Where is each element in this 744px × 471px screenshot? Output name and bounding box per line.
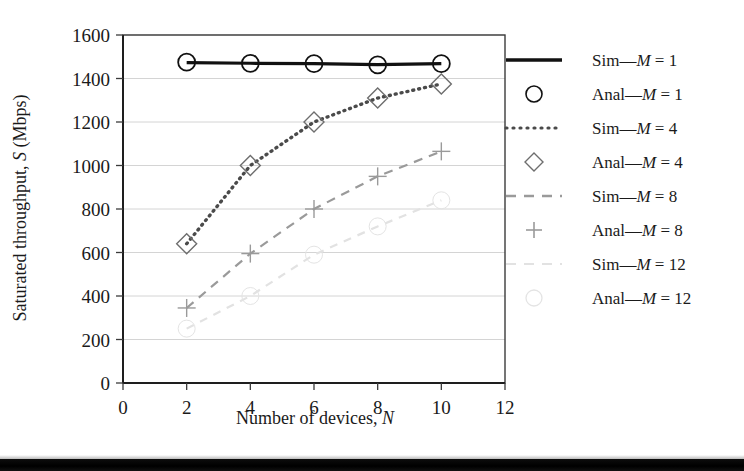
- series-line: [187, 84, 442, 244]
- series-sim-m-12: [187, 200, 442, 328]
- legend-item-label: Sim—M = 1: [592, 51, 677, 70]
- x-tick-label: 0: [118, 397, 128, 418]
- series-sim-m-8: [187, 151, 442, 308]
- y-tick-label: 0: [101, 373, 111, 394]
- data-marker-circle: [306, 246, 323, 263]
- legend: Sim—M = 1Anal—M = 1Sim—M = 4Anal—M = 4Si…: [506, 51, 691, 308]
- legend-item-label: Anal—M = 8: [592, 221, 683, 240]
- x-tick-label: 10: [432, 397, 451, 418]
- throughput-chart: 02004006008001000120014001600024681012 S…: [0, 0, 744, 430]
- series-line: [187, 63, 442, 65]
- y-tick-label: 400: [82, 286, 111, 307]
- y-tick-label: 1200: [72, 112, 110, 133]
- figure-container: 02004006008001000120014001600024681012 S…: [0, 0, 744, 471]
- y-tick-label: 200: [82, 330, 111, 351]
- legend-item-anal-m12[interactable]: Anal—M = 12: [526, 289, 691, 308]
- legend-item-label: Sim—M = 12: [592, 255, 686, 274]
- legend-item-label: Anal—M = 12: [592, 289, 691, 308]
- legend-item-label: Sim—M = 4: [592, 119, 678, 138]
- series-line: [187, 151, 442, 308]
- legend-item-label: Anal—M = 1: [592, 85, 683, 104]
- y-tick-label: 1600: [72, 25, 110, 46]
- data-marker-diamond: [431, 74, 451, 94]
- legend-item-anal-m4[interactable]: Anal—M = 4: [525, 153, 683, 172]
- series-sim-m-4: [187, 84, 442, 244]
- legend-item-sim-m4[interactable]: Sim—M = 4: [506, 119, 678, 138]
- series-line: [187, 200, 442, 328]
- legend-item-label: Anal—M = 4: [592, 153, 683, 172]
- y-tick-label: 1400: [72, 69, 110, 90]
- legend-item-sim-m12[interactable]: Sim—M = 12: [506, 255, 686, 274]
- series-anal-m-8: [178, 142, 451, 317]
- series-sim-m-1: [187, 63, 442, 65]
- legend-item-anal-m1[interactable]: Anal—M = 1: [526, 85, 683, 104]
- x-axis-title: Number of devices, N: [236, 408, 395, 428]
- tick-labels-group: 02004006008001000120014001600024681012: [72, 25, 515, 418]
- legend-swatch-faint-circle: [526, 290, 542, 306]
- bottom-rule: [0, 459, 744, 471]
- legend-item-sim-m8[interactable]: Sim—M = 8: [506, 187, 677, 206]
- x-tick-label: 2: [182, 397, 192, 418]
- y-tick-label: 1000: [72, 156, 110, 177]
- y-tick-label: 800: [82, 199, 111, 220]
- legend-item-sim-m1[interactable]: Sim—M = 1: [506, 51, 677, 70]
- x-tick-label: 12: [496, 397, 515, 418]
- data-series-group: [177, 54, 452, 337]
- plot-area: 02004006008001000120014001600024681012 S…: [0, 0, 744, 430]
- legend-item-anal-m8[interactable]: Anal—M = 8: [526, 221, 683, 240]
- series-anal-m-4: [177, 74, 452, 254]
- legend-item-label: Sim—M = 8: [592, 187, 677, 206]
- y-tick-label: 600: [82, 243, 111, 264]
- legend-swatch-circle: [526, 86, 542, 102]
- legend-swatch-diamond: [525, 153, 543, 171]
- y-axis-title: Saturated throughput, S (Mbps): [10, 95, 31, 322]
